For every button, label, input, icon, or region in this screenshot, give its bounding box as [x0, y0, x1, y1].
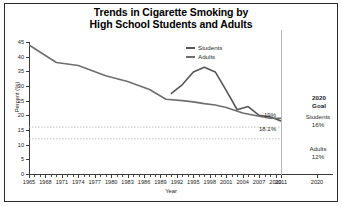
x-axis-tick — [51, 175, 52, 177]
x-axis-tick — [150, 175, 151, 177]
x-axis-tick — [254, 175, 255, 177]
x-axis-tick — [133, 175, 134, 177]
goal-adults-label: Adults — [309, 145, 326, 152]
legend-line-swatch-students-icon — [186, 47, 195, 49]
x-axis-tick — [171, 175, 172, 177]
x-axis-tick — [78, 175, 79, 178]
y-axis-tick-label: 45 — [10, 39, 24, 45]
legend-item-adults: Adults — [186, 52, 222, 61]
x-axis-tick — [45, 175, 46, 178]
goal-adults: Adults 12% — [297, 145, 339, 161]
x-axis-tick — [84, 175, 85, 177]
x-axis-tick-label: 2011 — [269, 179, 293, 186]
callout-students-end-value: 19% — [264, 112, 276, 118]
chart-title: Trends in Cigarette Smoking by High Scho… — [0, 6, 342, 30]
x-axis-tick — [177, 175, 178, 178]
y-axis-tick-label: 10 — [10, 142, 24, 148]
legend-label-adults: Adults — [198, 52, 215, 61]
goal-column-header: 2020 Goal — [300, 94, 338, 110]
y-axis-tick-label: 40 — [10, 54, 24, 60]
chart-title-line-1: Trends in Cigarette Smoking by — [0, 6, 342, 18]
x-axis-tick — [265, 175, 266, 177]
x-axis-tick — [248, 175, 249, 177]
goal-column-divider — [281, 30, 282, 175]
x-axis-tick — [56, 175, 57, 177]
x-axis-tick-goal — [317, 175, 318, 178]
x-axis-tick — [276, 175, 277, 178]
x-axis-tick — [122, 175, 123, 177]
x-axis-tick — [210, 175, 211, 178]
reference-lines — [29, 127, 281, 139]
x-axis-tick — [281, 175, 282, 178]
x-axis-tick — [106, 175, 107, 177]
chart-figure: Trends in Cigarette Smoking by High Scho… — [0, 0, 342, 206]
callout-adults-end-value: 18.1% — [259, 126, 276, 132]
goal-students-value: 16% — [312, 121, 324, 128]
goal-header-year: 2020 — [312, 94, 326, 101]
plot-area — [29, 42, 281, 174]
data-lines-svg — [29, 42, 281, 174]
x-axis-tick — [139, 175, 140, 177]
chart-title-line-2: High School Students and Adults — [0, 18, 342, 30]
x-axis-tick — [221, 175, 222, 177]
goal-students: Students 16% — [297, 113, 339, 129]
x-axis-tick — [204, 175, 205, 177]
legend-line-swatch-adults-icon — [186, 56, 195, 58]
x-axis-tick — [144, 175, 145, 178]
chart-legend: Students Adults — [186, 43, 222, 61]
x-axis-tick — [40, 175, 41, 177]
x-axis-tick — [259, 175, 260, 178]
x-axis-tick — [199, 175, 200, 177]
x-axis-tick — [193, 175, 194, 178]
x-axis-tick — [270, 175, 271, 177]
x-axis-tick — [243, 175, 244, 178]
legend-label-students: Students — [198, 43, 222, 52]
x-axis-tick — [226, 175, 227, 178]
y-axis-tick-label: 0 — [10, 171, 24, 177]
x-axis-tick — [160, 175, 161, 178]
x-axis-tick — [111, 175, 112, 178]
series-lines — [29, 45, 281, 121]
x-axis-line — [29, 174, 333, 175]
x-axis-tick-label-goal: 2020 — [305, 179, 329, 186]
legend-item-students: Students — [186, 43, 222, 52]
x-axis-tick — [128, 175, 129, 178]
goal-adults-value: 12% — [312, 153, 324, 160]
x-axis-tick — [215, 175, 216, 177]
x-axis-tick — [182, 175, 183, 177]
x-axis-tick — [166, 175, 167, 177]
goal-students-label: Students — [306, 113, 330, 120]
x-axis-tick — [62, 175, 63, 178]
x-axis-tick — [73, 175, 74, 177]
x-axis-tick — [89, 175, 90, 177]
x-axis-tick — [95, 175, 96, 178]
x-axis-tick — [155, 175, 156, 177]
x-axis-tick — [67, 175, 68, 177]
y-axis-tick-label: 15 — [10, 127, 24, 133]
x-axis-tick — [29, 175, 30, 178]
x-axis-tick — [232, 175, 233, 177]
y-axis-tick-label: 5 — [10, 156, 24, 162]
x-axis-tick — [117, 175, 118, 177]
x-axis-tick — [188, 175, 189, 177]
x-axis-title: Year — [0, 188, 342, 194]
goal-header-word: Goal — [312, 102, 326, 109]
x-axis-tick — [100, 175, 101, 177]
x-axis-tick — [34, 175, 35, 177]
y-axis-title: Percent (%) — [14, 67, 20, 127]
x-axis-tick — [237, 175, 238, 177]
